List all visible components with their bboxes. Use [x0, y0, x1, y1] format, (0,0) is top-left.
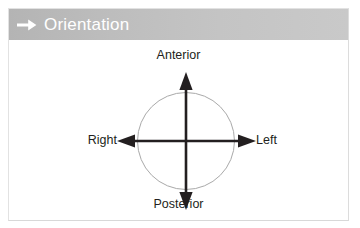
label-posterior: Posterior — [9, 198, 348, 211]
label-anterior: Anterior — [9, 49, 348, 62]
label-left: Left — [256, 134, 300, 147]
left-arrowhead — [238, 134, 256, 147]
anterior-arrowhead — [179, 72, 192, 90]
section-header: Orientation — [9, 9, 348, 40]
section-title: Orientation — [44, 16, 129, 33]
figure-frame: Orientation Anterior Posterior Right Lef… — [8, 8, 349, 221]
label-right: Right — [81, 134, 117, 147]
orientation-axes-graphic — [9, 40, 348, 220]
arrow-right-icon — [17, 18, 37, 32]
orientation-diagram: Anterior Posterior Right Left — [9, 40, 348, 220]
right-arrowhead — [117, 134, 135, 147]
